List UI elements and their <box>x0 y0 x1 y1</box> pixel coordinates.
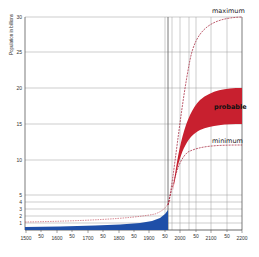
svg-text:50: 50 <box>38 233 44 239</box>
svg-text:1700: 1700 <box>82 235 93 241</box>
svg-text:2000: 2000 <box>174 235 185 241</box>
svg-text:1500: 1500 <box>20 235 31 241</box>
svg-text:50: 50 <box>69 233 75 239</box>
svg-text:50: 50 <box>224 233 230 239</box>
svg-text:1900: 1900 <box>143 235 154 241</box>
svg-text:4: 4 <box>19 199 22 205</box>
svg-text:2200: 2200 <box>236 235 247 241</box>
svg-text:50: 50 <box>100 233 106 239</box>
svg-text:50: 50 <box>131 233 137 239</box>
y-axis-label: Population in billions <box>9 13 14 55</box>
svg-text:2: 2 <box>19 213 22 219</box>
svg-text:50: 50 <box>162 233 168 239</box>
historical-trend-line <box>25 200 170 222</box>
svg-text:3: 3 <box>19 206 22 212</box>
maximum-label: maximum <box>212 7 245 15</box>
svg-text:2100: 2100 <box>205 235 216 241</box>
svg-text:10: 10 <box>16 157 22 163</box>
svg-text:1800: 1800 <box>113 235 124 241</box>
svg-text:25: 25 <box>16 49 22 55</box>
population-chart: maximum probable minimum Population in b… <box>0 0 259 257</box>
x-tick-labels: 1500 50 1600 50 1700 50 1800 50 1900 50 … <box>20 233 247 241</box>
y-tick-labels: 30 25 20 15 10 5 4 3 2 1 <box>16 14 22 226</box>
minimum-label: minimum <box>212 137 243 145</box>
svg-text:5: 5 <box>19 192 22 198</box>
svg-text:1: 1 <box>19 220 22 226</box>
svg-text:30: 30 <box>16 14 22 20</box>
probable-label: probable <box>214 103 247 111</box>
svg-text:15: 15 <box>16 121 22 127</box>
svg-text:50: 50 <box>193 233 199 239</box>
svg-text:1600: 1600 <box>51 235 62 241</box>
svg-text:20: 20 <box>16 85 22 91</box>
